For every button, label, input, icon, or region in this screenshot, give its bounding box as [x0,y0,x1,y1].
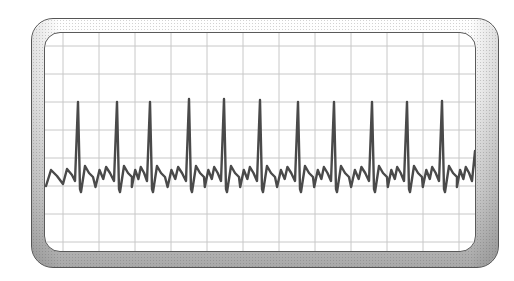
ecg-display [45,33,476,252]
monitor-screen [44,32,476,252]
ecg-waveform [46,99,476,192]
